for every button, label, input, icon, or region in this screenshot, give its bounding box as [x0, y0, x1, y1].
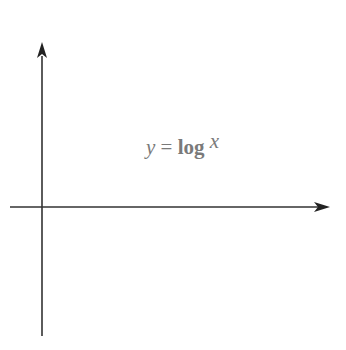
eq-y: y [144, 135, 156, 159]
eq-equals: = [155, 135, 177, 159]
eq-log: log [178, 135, 205, 159]
equation-label: y = log x [144, 129, 220, 159]
y-axis-arrow-icon [37, 42, 47, 58]
eq-x: x [205, 129, 220, 153]
log-graph: y = log x [0, 0, 346, 350]
